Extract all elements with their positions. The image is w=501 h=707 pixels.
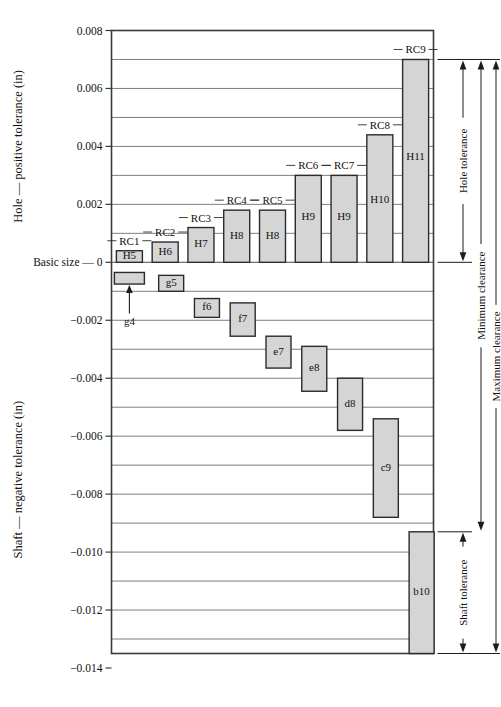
shaft-tolerance-bar: f7 bbox=[230, 303, 255, 336]
bar-grade-label: H8 bbox=[266, 229, 280, 241]
bar-grade-label: H5 bbox=[123, 249, 137, 261]
bracket-label: Shaft tolerance bbox=[457, 559, 469, 625]
bar-grade-label: c9 bbox=[381, 461, 392, 473]
y-tick-label: 0.008 bbox=[77, 25, 103, 37]
bar-grade-label: H9 bbox=[302, 210, 316, 222]
clearance-brackets: Hole toleranceMinimum clearanceMaximum c… bbox=[438, 59, 501, 653]
bar-fit-label: RC2 bbox=[155, 226, 175, 238]
shaft-tolerance-bar: g5 bbox=[159, 275, 184, 291]
bracket-label: Maximum clearance bbox=[490, 311, 501, 401]
bracket-label: Minimum clearance bbox=[475, 251, 487, 339]
hole-tolerance-bar: H10RC8 bbox=[358, 119, 402, 262]
bracket-label: Hole tolerance bbox=[457, 129, 469, 194]
bar-fit-label: RC3 bbox=[191, 212, 212, 224]
y-axis-tick-labels: 0.0080.0060.0040.002Basic size — 0−0.002… bbox=[33, 25, 103, 674]
hole-tolerance-bar: H5RC1 bbox=[107, 235, 151, 263]
bar-grade-label: H6 bbox=[158, 245, 172, 257]
hole-tolerance-bar: H11RC9 bbox=[394, 43, 438, 262]
bracket-arrow-top bbox=[493, 60, 500, 69]
bar-rect bbox=[114, 272, 144, 284]
y-tick-label: −0.008 bbox=[70, 488, 103, 500]
basic-size-label: Basic size — 0 bbox=[33, 256, 103, 268]
bracket-arrow-top bbox=[460, 533, 467, 542]
bar-fit-label: RC8 bbox=[370, 119, 391, 131]
y-tick-label: 0.002 bbox=[77, 198, 103, 210]
y-tick-label: −0.004 bbox=[70, 372, 103, 384]
bar-grade-label: H10 bbox=[370, 193, 389, 205]
shaft-tolerance-bar: e7 bbox=[266, 336, 291, 368]
shaft-tolerance-bar: d8 bbox=[338, 378, 363, 430]
bar-grade-label: H7 bbox=[194, 237, 208, 249]
bar-grade-label: b10 bbox=[413, 585, 430, 597]
shaft-tolerance-bar: e8 bbox=[302, 346, 327, 391]
chart-canvas: 0.0080.0060.0040.002Basic size — 0−0.002… bbox=[0, 0, 501, 707]
bracket-shaft-tolerance: Shaft tolerance bbox=[457, 533, 469, 653]
bracket-maximum-clearance: Maximum clearance bbox=[490, 60, 501, 652]
bar-fit-label: RC4 bbox=[227, 194, 248, 206]
bar-grade-label: f6 bbox=[202, 300, 212, 312]
g4-label: g4 bbox=[124, 315, 136, 327]
bracket-hole-tolerance: Hole tolerance bbox=[457, 60, 469, 261]
bar-grade-label: H11 bbox=[406, 150, 425, 162]
shaft-tolerance-bar: f6 bbox=[194, 299, 219, 318]
hole-tolerance-bar: H7RC3 bbox=[179, 212, 223, 263]
bar-grade-label: g5 bbox=[166, 276, 178, 288]
y-tick-label: 0.006 bbox=[77, 82, 103, 94]
bracket-arrow-top bbox=[478, 60, 485, 69]
bar-grade-label: f7 bbox=[238, 312, 248, 324]
bar-fit-label: RC9 bbox=[406, 43, 427, 55]
bracket-arrow-top bbox=[460, 60, 467, 69]
y-tick-label: −0.002 bbox=[70, 314, 103, 326]
y-tick-label: −0.010 bbox=[70, 546, 103, 558]
hole-tolerance-bar: H9RC6 bbox=[286, 159, 330, 262]
y-tick-label: −0.012 bbox=[70, 604, 103, 616]
bar-fit-label: RC6 bbox=[298, 159, 319, 171]
bracket-arrow-bottom bbox=[460, 644, 467, 653]
bar-grade-label: d8 bbox=[345, 397, 357, 409]
hole-tolerance-bar: H6RC2 bbox=[143, 226, 187, 262]
tolerance-chart: 0.0080.0060.0040.002Basic size — 0−0.002… bbox=[0, 0, 501, 707]
y-tick-label: −0.014 bbox=[70, 662, 103, 674]
hole-tolerance-bar: H9RC7 bbox=[322, 159, 366, 262]
tolerance-bars: H5RC1H6RC2H7RC3H8RC4H8RC5H9RC6H9RC7H10RC… bbox=[107, 43, 437, 653]
shaft-tolerance-bar: b10 bbox=[409, 532, 434, 654]
axis-titles: Hole — positive tolerance (in)Shaft — ne… bbox=[11, 70, 25, 558]
bracket-arrow-bottom bbox=[478, 522, 485, 531]
bracket-minimum-clearance: Minimum clearance bbox=[475, 60, 487, 530]
bar-fit-label: RC1 bbox=[119, 235, 139, 247]
shaft-tolerance-bar bbox=[114, 272, 144, 284]
bar-fit-label: RC7 bbox=[334, 159, 355, 171]
y-axis-title-hole: Hole — positive tolerance (in) bbox=[11, 70, 25, 223]
bar-fit-label: RC5 bbox=[262, 194, 283, 206]
bracket-arrow-bottom bbox=[460, 252, 467, 261]
bar-grade-label: H8 bbox=[230, 229, 244, 241]
g4-arrow-head bbox=[126, 285, 133, 293]
y-axis-ticks bbox=[106, 31, 112, 668]
y-axis-title-shaft: Shaft — negative tolerance (in) bbox=[11, 401, 25, 559]
bracket-arrow-bottom bbox=[493, 644, 500, 653]
bar-grade-label: H9 bbox=[337, 210, 351, 222]
y-tick-label: 0.004 bbox=[77, 140, 103, 152]
y-tick-label: −0.006 bbox=[70, 430, 103, 442]
bar-grade-label: e7 bbox=[273, 345, 284, 357]
bar-grade-label: e8 bbox=[309, 361, 320, 373]
shaft-tolerance-bar: c9 bbox=[373, 419, 398, 518]
